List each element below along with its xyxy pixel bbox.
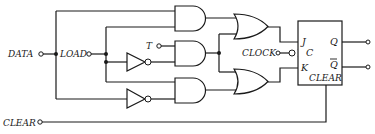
ff-k-label: K [300, 62, 309, 73]
or-gate-1 [234, 14, 268, 39]
logic-circuit-diagram: DATA LOAD T CLOCK [0, 0, 375, 134]
ff-clear-label: CLEAR [309, 73, 342, 83]
or1-to-j-wire [268, 27, 298, 42]
or-gate-2 [234, 69, 268, 94]
load-input-label: LOAD [59, 49, 87, 59]
clock-input-label: CLOCK [242, 48, 277, 58]
data-input-label: DATA [7, 49, 34, 59]
clock-inversion-bubble [289, 50, 295, 56]
qbar-output-pin [366, 65, 370, 69]
t-input-label: T [146, 41, 153, 51]
t-input-pin [157, 44, 161, 48]
load-input-pin [87, 52, 91, 56]
clear-input-label: CLEAR [3, 118, 36, 128]
data-input-pin [39, 52, 43, 56]
ff-qbar-label: Q [330, 59, 338, 70]
or2-to-k-wire [268, 68, 298, 82]
clock-input-pin [276, 51, 280, 55]
ff-q-label: Q [330, 36, 338, 47]
not-gate-1-bubble [145, 59, 151, 65]
and-gate-3 [175, 78, 205, 103]
not-gate-2 [127, 89, 145, 108]
not-gate-2-bubble [145, 96, 151, 102]
and-gate-2 [175, 41, 205, 66]
clear-input-pin [38, 120, 42, 124]
not-gate-1 [127, 53, 145, 71]
ff-c-label: C [306, 47, 314, 58]
and-gate-1 [175, 6, 205, 31]
q-output-pin [366, 40, 370, 44]
